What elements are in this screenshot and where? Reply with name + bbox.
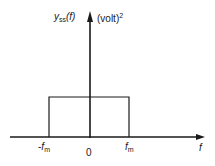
tick-pos-m: m <box>128 146 134 153</box>
x-axis-label: f <box>199 143 202 153</box>
y-label-sub: ss <box>59 16 66 23</box>
diagram-graphics <box>0 0 215 166</box>
psd-diagram: yss(f) (volt)2 -fm 0 fm f <box>0 0 215 166</box>
y-label-arg: (f) <box>66 11 75 22</box>
y-unit-label: (volt)2 <box>97 12 123 24</box>
spectrum-rectangle <box>49 97 129 137</box>
x-axis-arrow-icon <box>196 134 205 140</box>
tick-origin: 0 <box>86 148 92 158</box>
y-axis-arrow-icon <box>87 11 93 22</box>
tick-neg-fm: -fm <box>38 142 50 153</box>
tick-neg-m: m <box>44 146 50 153</box>
y-axis-label: yss(f) <box>54 12 75 23</box>
tick-pos-fm: fm <box>125 142 134 153</box>
y-unit: (volt) <box>97 13 119 24</box>
y-unit-exponent: 2 <box>119 12 123 19</box>
